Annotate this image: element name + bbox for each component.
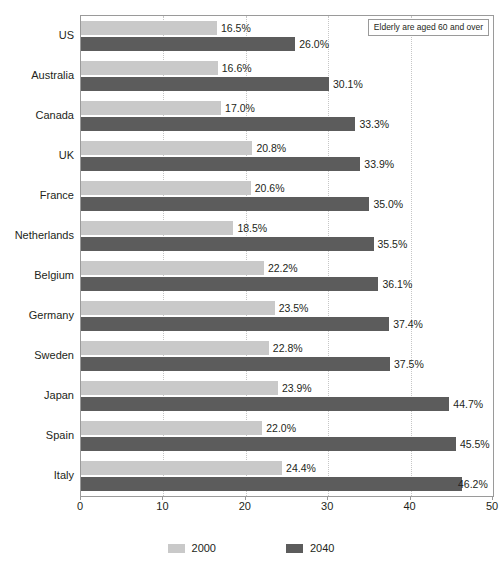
bar-uk-2040 bbox=[81, 157, 360, 171]
bar-value-label: 33.9% bbox=[364, 157, 394, 171]
bar-belgium-2000 bbox=[81, 261, 264, 275]
bar-value-label: 33.3% bbox=[359, 117, 389, 131]
legend-item-2040: 2040 bbox=[286, 542, 334, 554]
category-label-spain: Spain bbox=[0, 429, 74, 441]
bar-value-label: 16.5% bbox=[221, 21, 251, 35]
x-tick-label: 20 bbox=[239, 500, 251, 513]
bar-value-label: 22.8% bbox=[273, 341, 303, 355]
bar-value-label: 20.8% bbox=[256, 141, 286, 155]
bar-value-label: 24.4% bbox=[286, 461, 316, 475]
x-tick-label: 40 bbox=[403, 500, 415, 513]
bar-value-label: 37.4% bbox=[393, 317, 423, 331]
bar-germany-2040 bbox=[81, 317, 389, 331]
category-label-netherlands: Netherlands bbox=[0, 229, 74, 241]
bar-value-label: 36.1% bbox=[382, 277, 412, 291]
chart-annotation: Elderly are aged 60 and over bbox=[368, 19, 489, 36]
legend-swatch-2000 bbox=[168, 544, 185, 553]
bar-value-label: 46.2% bbox=[458, 477, 488, 491]
chart-legend: 2000 2040 bbox=[0, 538, 502, 558]
bar-netherlands-2000 bbox=[81, 221, 233, 235]
legend-label-2040: 2040 bbox=[310, 542, 334, 554]
category-label-canada: Canada bbox=[0, 109, 74, 121]
legend-label-2000: 2000 bbox=[192, 542, 216, 554]
x-tick-label: 50 bbox=[486, 500, 498, 513]
category-label-germany: Germany bbox=[0, 309, 74, 321]
bar-france-2040 bbox=[81, 197, 369, 211]
bar-japan-2000 bbox=[81, 381, 278, 395]
bar-australia-2000 bbox=[81, 61, 218, 75]
x-axis: 01020304050 bbox=[80, 497, 494, 519]
category-label-uk: UK bbox=[0, 149, 74, 161]
bar-value-label: 23.9% bbox=[282, 381, 312, 395]
bar-australia-2040 bbox=[81, 77, 329, 91]
x-tick-label: 30 bbox=[321, 500, 333, 513]
bar-value-label: 35.0% bbox=[373, 197, 403, 211]
gridline bbox=[411, 16, 412, 496]
bar-japan-2040 bbox=[81, 397, 449, 411]
category-label-italy: Italy bbox=[0, 469, 74, 481]
bar-value-label: 45.5% bbox=[460, 437, 490, 451]
bar-spain-2040 bbox=[81, 437, 456, 451]
bar-value-label: 26.0% bbox=[299, 37, 329, 51]
bar-sweden-2000 bbox=[81, 341, 269, 355]
bar-value-label: 44.7% bbox=[453, 397, 483, 411]
category-label-japan: Japan bbox=[0, 389, 74, 401]
category-label-us: US bbox=[0, 29, 74, 41]
bar-us-2040 bbox=[81, 37, 295, 51]
bar-value-label: 23.5% bbox=[279, 301, 309, 315]
bar-value-label: 17.0% bbox=[225, 101, 255, 115]
bar-value-label: 16.6% bbox=[222, 61, 252, 75]
bar-chart: USAustraliaCanadaUKFranceNetherlandsBelg… bbox=[0, 0, 502, 565]
bar-italy-2000 bbox=[81, 461, 282, 475]
bar-value-label: 37.5% bbox=[394, 357, 424, 371]
category-label-france: France bbox=[0, 189, 74, 201]
bar-netherlands-2040 bbox=[81, 237, 374, 251]
bar-spain-2000 bbox=[81, 421, 262, 435]
legend-item-2000: 2000 bbox=[168, 542, 216, 554]
category-label-belgium: Belgium bbox=[0, 269, 74, 281]
bar-uk-2000 bbox=[81, 141, 252, 155]
bar-canada-2000 bbox=[81, 101, 221, 115]
bar-belgium-2040 bbox=[81, 277, 378, 291]
bar-germany-2000 bbox=[81, 301, 275, 315]
bar-value-label: 18.5% bbox=[237, 221, 267, 235]
bar-canada-2040 bbox=[81, 117, 355, 131]
bar-value-label: 22.0% bbox=[266, 421, 296, 435]
bar-value-label: 22.2% bbox=[268, 261, 298, 275]
x-tick-label: 0 bbox=[77, 500, 83, 513]
bar-value-label: 35.5% bbox=[378, 237, 408, 251]
legend-swatch-2040 bbox=[286, 544, 303, 553]
bar-france-2000 bbox=[81, 181, 251, 195]
bar-sweden-2040 bbox=[81, 357, 390, 371]
bar-us-2000 bbox=[81, 21, 217, 35]
bar-value-label: 20.6% bbox=[255, 181, 285, 195]
plot-inner: 16.5%26.0%16.6%30.1%17.0%33.3%20.8%33.9%… bbox=[81, 16, 493, 496]
x-tick-label: 10 bbox=[156, 500, 168, 513]
bar-italy-2040 bbox=[81, 477, 462, 491]
category-label-sweden: Sweden bbox=[0, 349, 74, 361]
bar-value-label: 30.1% bbox=[333, 77, 363, 91]
category-label-australia: Australia bbox=[0, 69, 74, 81]
category-axis: USAustraliaCanadaUKFranceNetherlandsBelg… bbox=[0, 15, 74, 495]
plot-area: 16.5%26.0%16.6%30.1%17.0%33.3%20.8%33.9%… bbox=[80, 15, 494, 497]
